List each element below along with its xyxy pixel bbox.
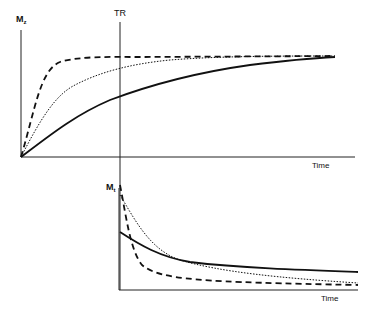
lower-curve-solid (120, 232, 358, 272)
lower-x-label: Time (321, 294, 338, 303)
upper-curve-dashed (21, 56, 335, 157)
upper-x-label: Time (312, 161, 329, 170)
upper-y-label: Mz (16, 14, 27, 25)
tr-label: TR (114, 8, 126, 18)
upper-curve-dotted (21, 56, 335, 157)
lower-y-label: Mt (106, 182, 116, 193)
upper-curve-solid (21, 57, 335, 157)
mr-signal-chart (0, 0, 379, 313)
lower-curve-dotted (120, 195, 358, 283)
